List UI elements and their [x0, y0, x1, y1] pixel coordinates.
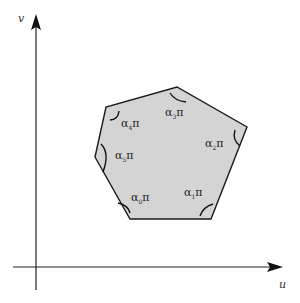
u-axis-label: u [279, 278, 286, 291]
v-axis-label: v [18, 12, 25, 25]
polygon-diagram: v u α0π α1π α2π α3π α4π α5π [0, 0, 300, 303]
diagram-canvas: v u α0π α1π α2π α3π α4π α5π [0, 0, 300, 303]
